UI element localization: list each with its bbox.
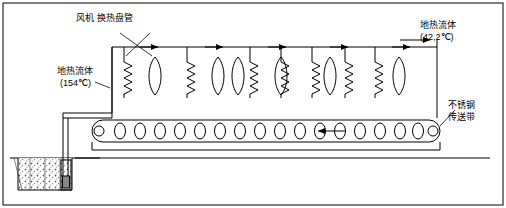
label-geothermal-outlet-line1: 地热流体 bbox=[420, 20, 456, 31]
label-fan-coil: 风机 换热盘管 bbox=[76, 13, 133, 24]
diagram-canvas: 风机 换热盘管 地热流体 (154℃) 地热流体 (42,2℃) 不锈钢 传送带 bbox=[0, 0, 506, 208]
label-geothermal-outlet-line2: (42,2℃) bbox=[420, 32, 454, 43]
label-geothermal-inlet-line2: (154℃) bbox=[60, 78, 91, 89]
coil-connectors bbox=[124, 47, 375, 95]
label-conveyor-line2: 传送带 bbox=[448, 112, 475, 123]
heat-exchange-coils bbox=[124, 58, 383, 98]
label-conveyor-line1: 不锈钢 bbox=[448, 100, 475, 111]
conveyor-rollers bbox=[115, 123, 424, 139]
label-geothermal-inlet-line1: 地热流体 bbox=[57, 66, 93, 77]
geothermal-well bbox=[61, 113, 112, 190]
conveyor-belt bbox=[92, 120, 440, 150]
